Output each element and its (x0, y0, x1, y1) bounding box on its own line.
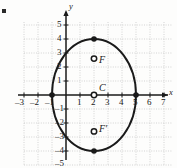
y-tick-label--5: –5 (55, 159, 64, 168)
x-tick-label--2: –2 (30, 98, 39, 107)
y-tick-label-1: 1 (57, 76, 62, 85)
x-tick-label-3: 3 (105, 98, 110, 107)
y-tick-label--1: –1 (55, 104, 64, 113)
x-tick-label--3: –3 (15, 98, 24, 107)
x-tick-label-1: 1 (77, 98, 82, 107)
x-tick-label-7: 7 (161, 98, 166, 107)
point-focus-upper (91, 56, 96, 61)
y-tick-label-5: 5 (57, 20, 62, 29)
label-focus-lower: F′ (99, 124, 107, 134)
y-tick-label-4: 4 (57, 34, 62, 43)
ellipse-figure: –3 –2 –1 1 2 3 4 5 6 7 5 4 3 2 1 –1 –2 –… (0, 0, 177, 168)
y-tick-label--3: –3 (55, 132, 64, 141)
x-tick-label-2: 2 (91, 98, 96, 107)
y-tick-label--4: –4 (55, 146, 64, 155)
y-tick-label-3: 3 (57, 48, 62, 57)
point-vertex-bottom (91, 148, 97, 154)
x-tick-label-5: 5 (133, 98, 138, 107)
point-vertex-top (91, 36, 97, 42)
graph-canvas (0, 0, 177, 168)
y-tick-label--2: –2 (55, 118, 64, 127)
y-axis-label: y (69, 2, 73, 11)
point-focus-lower (91, 129, 96, 134)
x-axis-label: x (169, 88, 173, 97)
label-focus-upper: F (99, 55, 105, 65)
x-tick-label-4: 4 (119, 98, 124, 107)
x-tick-label--1: –1 (45, 98, 54, 107)
y-axis-arrow (63, 10, 68, 16)
label-center: C (99, 83, 106, 93)
y-tick-label-2: 2 (57, 62, 62, 71)
axes (18, 12, 168, 160)
x-tick-label-6: 6 (147, 98, 152, 107)
